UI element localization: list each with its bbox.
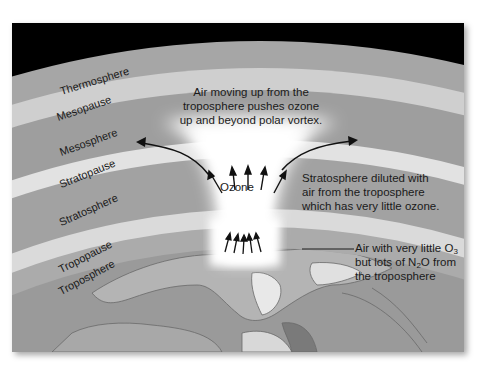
annotation-low-o3: Air with very little O3 but lots of N2O … bbox=[355, 241, 458, 283]
annotation-low-line-1: Air with very little O3 bbox=[355, 241, 458, 255]
annotation-mid-line-1: Stratosphere diluted with bbox=[302, 171, 439, 185]
annotation-low-line-2: but lots of N2O from bbox=[355, 255, 458, 269]
annotation-top-line-3: up and beyond polar vortex. bbox=[176, 113, 326, 127]
annotation-stratosphere-diluted: Stratosphere diluted with air from the t… bbox=[302, 171, 439, 213]
atmosphere-diagram: Thermosphere Mesopause Mesosphere Strato… bbox=[12, 23, 464, 352]
annotation-top-line-2: troposphere pushes ozone bbox=[176, 99, 326, 113]
annotation-mid-line-2: air from the troposphere bbox=[302, 185, 439, 199]
annotation-mid-line-3: which has very little ozone. bbox=[302, 199, 439, 213]
annotation-top: Air moving up from the troposphere pushe… bbox=[176, 85, 326, 127]
annotation-low-line-3: the troposphere bbox=[355, 269, 458, 283]
ozone-label: Ozone bbox=[220, 180, 254, 194]
annotation-top-line-1: Air moving up from the bbox=[176, 85, 326, 99]
